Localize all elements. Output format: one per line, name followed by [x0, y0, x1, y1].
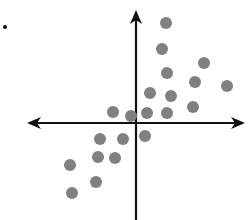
data-point — [90, 176, 102, 188]
data-point — [141, 107, 153, 119]
data-point — [139, 130, 151, 142]
scatter-chart — [0, 0, 251, 220]
data-point — [156, 43, 168, 55]
data-point — [109, 152, 121, 164]
bullet-dot-icon — [3, 25, 7, 29]
data-point — [187, 101, 199, 113]
data-point — [117, 133, 129, 145]
data-points — [64, 17, 233, 199]
annotations — [3, 25, 7, 29]
data-point — [66, 187, 78, 199]
data-point — [125, 110, 137, 122]
data-point — [161, 67, 173, 79]
data-point — [92, 151, 104, 163]
data-point — [221, 80, 233, 92]
data-point — [160, 17, 172, 29]
data-point — [144, 87, 156, 99]
data-point — [64, 159, 76, 171]
data-point — [94, 133, 106, 145]
scatter-plot-canvas — [0, 0, 251, 220]
data-point — [165, 90, 177, 102]
data-point — [198, 57, 210, 69]
data-point — [161, 107, 173, 119]
data-point — [107, 106, 119, 118]
data-point — [189, 76, 201, 88]
